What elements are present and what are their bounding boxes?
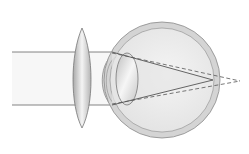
eye-crystalline-lens — [116, 53, 138, 105]
incoming-beam — [12, 52, 112, 105]
corrective-convex-lens — [73, 28, 91, 128]
hyperopia-correction-diagram — [0, 0, 249, 154]
